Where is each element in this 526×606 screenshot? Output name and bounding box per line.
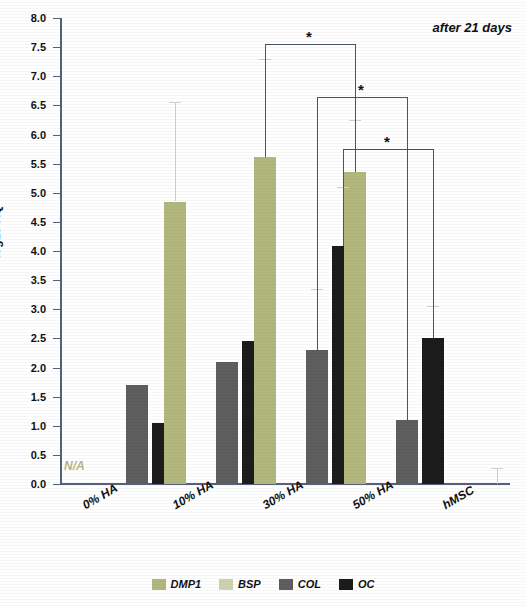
significance-bracket-tick [407, 97, 408, 420]
y-tick-label: 3.5 [31, 274, 46, 286]
bar [396, 420, 418, 484]
bar [344, 172, 366, 484]
y-tick [53, 135, 60, 136]
significance-bracket-tick [433, 149, 434, 338]
y-tick-label: 7.5 [31, 41, 46, 53]
error-bar-cap [491, 468, 503, 469]
y-tick [53, 18, 60, 19]
legend-swatch [339, 579, 353, 590]
significance-bracket-tick [317, 97, 318, 350]
legend-swatch [279, 579, 293, 590]
plot-area: 0.00.51.01.52.02.53.03.54.04.55.05.56.06… [60, 18, 510, 484]
significance-star: * [306, 29, 312, 44]
y-tick [53, 47, 60, 48]
y-tick-label: 0.0 [31, 478, 46, 490]
y-tick-label: 4.5 [31, 216, 46, 228]
legend-item: COL [279, 578, 321, 590]
y-tick-label: 2.5 [31, 332, 46, 344]
y-tick [53, 76, 60, 77]
y-tick-label: 1.5 [31, 391, 46, 403]
y-tick-label: 5.5 [31, 158, 46, 170]
bar-chart: after 21 days log10 RQ 0.00.51.01.52.02.… [0, 0, 526, 606]
significance-bracket-tick [355, 44, 356, 172]
error-bar-cap [169, 102, 181, 103]
significance-bracket-tick [265, 44, 266, 156]
error-bar [497, 468, 498, 484]
y-tick [53, 426, 60, 427]
legend-item: BSP [219, 578, 261, 590]
legend-label: COL [298, 578, 321, 590]
y-axis-title: log10 RQ [0, 206, 3, 259]
legend-label: OC [358, 578, 375, 590]
bar [216, 362, 238, 484]
legend-swatch [152, 579, 166, 590]
significance-star: * [358, 82, 364, 97]
significance-star: * [384, 134, 390, 149]
y-tick-label: 6.0 [31, 129, 46, 141]
legend-item: OC [339, 578, 375, 590]
x-axis-label: 0% HA [80, 481, 120, 512]
y-tick [53, 309, 60, 310]
bar [164, 202, 186, 485]
legend-label: BSP [238, 578, 261, 590]
x-axis-label: hMSC [440, 483, 476, 512]
y-tick [53, 455, 60, 456]
y-tick [53, 280, 60, 281]
y-tick [53, 397, 60, 398]
y-tick [53, 251, 60, 252]
legend-item: DMP1 [152, 578, 202, 590]
y-tick [53, 338, 60, 339]
y-tick [53, 193, 60, 194]
y-tick-label: 5.0 [31, 187, 46, 199]
y-tick-label: 6.5 [31, 99, 46, 111]
y-tick [53, 368, 60, 369]
y-tick-label: 7.0 [31, 70, 46, 82]
y-tick [53, 164, 60, 165]
y-tick-label: 0.5 [31, 449, 46, 461]
y-tick [53, 105, 60, 106]
bar [306, 350, 328, 484]
y-tick [53, 222, 60, 223]
y-tick [53, 484, 60, 485]
y-tick-label: 4.0 [31, 245, 46, 257]
error-bar [175, 102, 176, 201]
y-tick-label: 1.0 [31, 420, 46, 432]
chart-legend: DMP1BSPCOLOC [0, 578, 526, 590]
legend-label: DMP1 [171, 578, 202, 590]
legend-swatch [219, 579, 233, 590]
bar [422, 338, 444, 484]
y-tick-label: 3.0 [31, 303, 46, 315]
significance-bracket-tick [343, 149, 344, 246]
y-tick-label: 8.0 [31, 12, 46, 24]
na-annotation: N/A [64, 459, 85, 473]
y-tick-label: 2.0 [31, 362, 46, 374]
bar [126, 385, 148, 484]
bar [254, 157, 276, 484]
